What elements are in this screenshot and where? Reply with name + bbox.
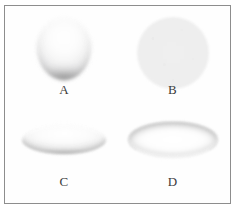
ring-edge-outline: [128, 122, 218, 158]
panel-a: A: [11, 14, 117, 106]
panel-label-d: D: [119, 174, 226, 190]
panel-d: D: [119, 106, 226, 197]
panel-b: B: [119, 14, 226, 106]
panel-label-c: C: [11, 174, 117, 190]
panel-label-a: A: [11, 82, 117, 98]
shape-area-d: [119, 106, 226, 174]
shape-area-a: [11, 14, 117, 82]
panel-c: C: [11, 106, 117, 197]
shape-area-c: [11, 106, 117, 174]
figure-frame: A B C D: [4, 5, 231, 204]
sphere-rim-shading: [37, 18, 91, 80]
figure-root: A B C D: [0, 0, 237, 210]
pancake-rim-shading: [22, 126, 106, 154]
shape-area-b: [119, 14, 226, 82]
flat-disc-texture: [137, 17, 209, 89]
panel-label-b: B: [119, 82, 226, 98]
